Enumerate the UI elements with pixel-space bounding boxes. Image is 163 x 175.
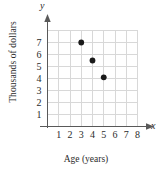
data-point xyxy=(78,40,84,46)
y-tick-label: 2 xyxy=(37,97,42,108)
x-tick-label: 3 xyxy=(79,129,84,140)
x-axis-arrowhead xyxy=(146,123,154,129)
data-point xyxy=(90,58,96,64)
y-tick-label: 1 xyxy=(37,109,42,120)
data-point xyxy=(101,74,107,80)
x-axis-tick-labels: 12345678 xyxy=(56,129,140,140)
y-axis-arrowhead xyxy=(44,14,50,22)
x-tick-label: 2 xyxy=(68,129,73,140)
x-tick-label: 7 xyxy=(124,129,129,140)
x-tick-label: 5 xyxy=(101,129,106,140)
y-axis-tick-labels: 1234567 xyxy=(37,37,42,120)
y-tick-label: 5 xyxy=(37,61,42,72)
scatter-plot-figure: Thousands of dollars Age (years) y x 123… xyxy=(0,0,163,175)
y-tick-label: 3 xyxy=(37,85,42,96)
plot-area: 1234567 12345678 xyxy=(0,0,163,175)
x-tick-label: 1 xyxy=(56,129,61,140)
y-tick-label: 7 xyxy=(37,37,42,48)
y-tick-label: 6 xyxy=(37,49,42,60)
x-tick-label: 4 xyxy=(90,129,95,140)
y-tick-label: 4 xyxy=(37,73,42,84)
x-tick-label: 8 xyxy=(135,129,140,140)
axis-lines xyxy=(40,14,154,130)
x-tick-label: 6 xyxy=(113,129,118,140)
